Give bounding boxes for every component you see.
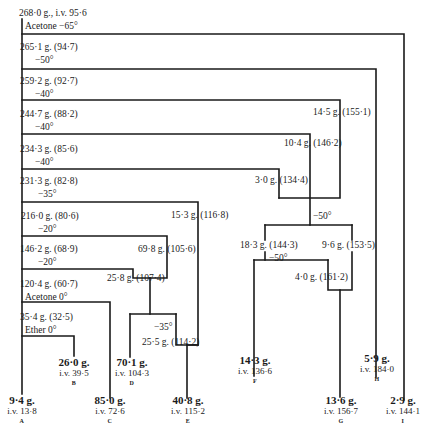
branch-node-label: 18·3 g. (144·3): [240, 240, 298, 251]
fraction-iodine-value: i.v. 72·6: [88, 406, 132, 417]
main-chain-step-label: −50°: [35, 55, 54, 66]
main-chain-step-label: −40°: [35, 122, 54, 133]
main-chain-step-label: Ether 0°: [25, 325, 57, 336]
fraction-letter: C: [88, 417, 132, 426]
fraction-iodine-value: i.v. 156·7: [318, 406, 364, 417]
branch-node-label: 10·4 g. (146·2): [284, 138, 342, 149]
fraction-iodine-value: i.v. 184·0: [354, 364, 400, 375]
branch-node-label: 69·8 g. (105·6): [138, 244, 196, 255]
branch-node-label: 4·0 g. (161·2): [295, 272, 348, 283]
fraction-i: 2·9 g. i.v. 144·1 I: [380, 395, 424, 426]
branch-step-label: −35°: [154, 322, 173, 333]
branch-step-label: −50°: [269, 253, 288, 264]
root-sample-label: 268·0 g., i.v. 95·6: [19, 8, 87, 19]
fraction-weight: 9·4 g.: [2, 395, 42, 406]
branch-node-label: 25·5 g. (114·2): [142, 337, 199, 348]
fraction-c: 85·0 g. i.v. 72·6 C: [88, 395, 132, 426]
main-chain-step-label: −35°: [38, 189, 57, 200]
fraction-iodine-value: i.v. 13·8: [2, 406, 42, 417]
fraction-weight: 14·3 g.: [232, 355, 278, 366]
main-chain-node-label: 259·2 g. (92·7): [20, 76, 78, 87]
branch-node-label: 25·8 g. (107·4): [107, 273, 165, 284]
fraction-d: 70·1 g. i.v. 104·3 D: [110, 357, 154, 388]
main-chain-node-label: 216·0 g. (80·6): [21, 211, 79, 222]
fraction-weight: 5·9 g.: [354, 353, 400, 364]
fraction-letter: H: [354, 375, 400, 384]
fraction-g: 13·6 g. i.v. 156·7 G: [318, 395, 364, 426]
fraction-iodine-value: i.v. 115·2: [165, 406, 211, 417]
fraction-e: 40·8 g. i.v. 115·2 E: [165, 395, 211, 426]
main-chain-step-label: −40°: [35, 89, 54, 100]
fraction-a: 9·4 g. i.v. 13·8 A: [2, 395, 42, 426]
main-chain-step-label: −20°: [38, 257, 57, 268]
fraction-h: 5·9 g. i.v. 184·0 H: [354, 353, 400, 384]
fraction-iodine-value: i.v. 39·5: [54, 368, 94, 379]
main-chain-step-label: −20°: [38, 224, 57, 235]
branch-node-label: 3·0 g. (134·4): [255, 175, 308, 186]
root-step-label: Acetone −65°: [25, 21, 78, 32]
fraction-b: 26·0 g. i.v. 39·5 B: [54, 357, 94, 388]
fraction-letter: D: [110, 379, 154, 388]
fraction-letter: I: [380, 417, 424, 426]
fraction-iodine-value: i.v. 144·1: [380, 406, 424, 417]
main-chain-node-label: 146·2 g. (68·9): [20, 244, 78, 255]
fraction-f: 14·3 g. i.v. 136·6 F: [232, 355, 278, 386]
main-chain-node-label: 265·1 g. (94·7): [20, 42, 78, 53]
fraction-iodine-value: i.v. 136·6: [232, 366, 278, 377]
fraction-letter: G: [318, 417, 364, 426]
main-chain-step-label: −40°: [35, 157, 54, 168]
main-chain-node-label: 231·3 g. (82·8): [20, 176, 78, 187]
branch-node-label: 14·5 g. (155·1): [313, 107, 371, 118]
fraction-weight: 2·9 g.: [380, 395, 424, 406]
main-chain-node-label: 244·7 g. (88·2): [20, 109, 78, 120]
fraction-weight: 13·6 g.: [318, 395, 364, 406]
branch-node-label: 9·6 g. (153·5): [322, 240, 375, 251]
fraction-weight: 26·0 g.: [54, 357, 94, 368]
main-chain-step-label: Acetone 0°: [25, 292, 68, 303]
fraction-letter: F: [232, 377, 278, 386]
fraction-weight: 70·1 g.: [110, 357, 154, 368]
branch-node-label: 15·3 g. (116·8): [171, 210, 228, 221]
fraction-letter: B: [54, 379, 94, 388]
branch-step-label: −50°: [313, 211, 332, 222]
fraction-weight: 85·0 g.: [88, 395, 132, 406]
main-chain-node-label: 234·3 g. (85·6): [20, 144, 78, 155]
main-chain-node-label: 120·4 g. (60·7): [20, 279, 78, 290]
main-chain-node-label: 35·4 g. (32·5): [20, 312, 73, 323]
fraction-letter: A: [2, 417, 42, 426]
fraction-letter: E: [165, 417, 211, 426]
fraction-iodine-value: i.v. 104·3: [110, 368, 154, 379]
fraction-weight: 40·8 g.: [165, 395, 211, 406]
